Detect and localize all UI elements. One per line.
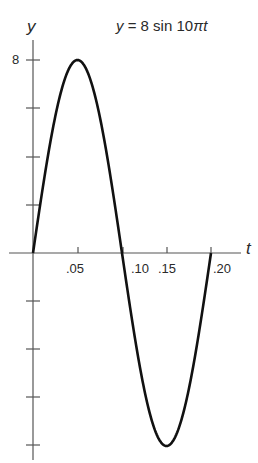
title-eq: = 8 sin 10	[124, 17, 194, 34]
x-tick-label-05: .05	[66, 261, 84, 276]
title-y: y	[116, 17, 124, 34]
chart-title: y = 8 sin 10πt	[116, 17, 207, 34]
x-tick-label-20: .20	[213, 261, 231, 276]
x-axis-label: t	[246, 239, 251, 259]
x-tick-label-10: .10	[131, 261, 149, 276]
x-tick-label-15: .15	[158, 261, 176, 276]
y-axis-label: y	[27, 17, 36, 37]
x-ticks	[78, 247, 211, 253]
title-pi-t: πt	[193, 17, 207, 34]
y-tick-label-8: 8	[12, 52, 19, 67]
sine-chart	[0, 0, 258, 463]
